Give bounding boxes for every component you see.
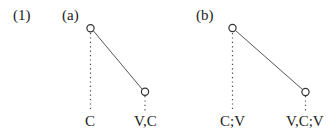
node-circle (229, 24, 236, 31)
node-circle (87, 25, 94, 32)
panel-b-graph (229, 24, 309, 111)
association-line-solid (94, 31, 143, 89)
panel-a-graph (87, 25, 149, 111)
node-circle (141, 88, 148, 95)
segment-label: C;V (220, 114, 245, 129)
node-circle (302, 88, 309, 95)
segment-label: V,C;V (286, 114, 324, 129)
autosegmental-diagram (0, 0, 333, 137)
segment-label: C (85, 114, 95, 129)
segment-label: V,C (134, 114, 157, 129)
association-line-solid (236, 31, 303, 90)
